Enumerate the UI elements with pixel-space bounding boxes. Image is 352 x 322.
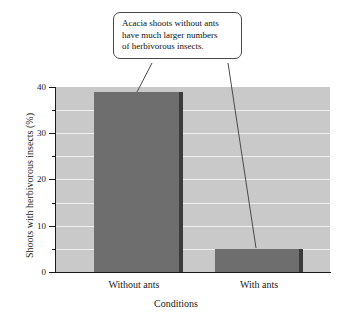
y-tick-25 bbox=[52, 156, 56, 157]
y-tick-label-0: 0 bbox=[42, 268, 47, 277]
annotation-callout: Acacia shoots without ants have much lar… bbox=[113, 12, 242, 59]
bar-with-ants bbox=[215, 249, 303, 272]
y-tick-label-10: 10 bbox=[37, 222, 46, 231]
y-tick-20 bbox=[49, 179, 56, 180]
x-axis-line bbox=[55, 272, 331, 273]
x-tick-label-without-ants: Without ants bbox=[84, 279, 184, 290]
y-tick-label-30: 30 bbox=[37, 129, 46, 138]
y-tick-label-20: 20 bbox=[37, 175, 46, 184]
y-tick-35 bbox=[52, 110, 56, 111]
y-tick-5 bbox=[52, 249, 56, 250]
y-axis-title: Shoots with herbivorous insects (%) bbox=[24, 86, 35, 286]
bar-with-ants-edge bbox=[299, 249, 303, 272]
bar-without-ants-edge bbox=[179, 92, 183, 272]
plot-area bbox=[56, 87, 330, 272]
y-tick-30 bbox=[49, 133, 56, 134]
y-tick-label-40: 40 bbox=[37, 83, 46, 92]
y-tick-40 bbox=[49, 87, 56, 88]
bar-without-ants bbox=[94, 92, 183, 272]
annotation-line-3: of herbivorous insects. bbox=[122, 41, 234, 53]
x-tick-label-with-ants: With ants bbox=[209, 279, 309, 290]
bar-chart-figure: 40 30 20 10 0 Shoots with herbivorous in… bbox=[0, 0, 352, 322]
y-tick-15 bbox=[52, 203, 56, 204]
y-tick-0 bbox=[49, 272, 56, 273]
y-tick-10 bbox=[49, 226, 56, 227]
y-axis-line bbox=[55, 87, 56, 273]
annotation-line-1: Acacia shoots without ants bbox=[122, 18, 234, 30]
annotation-line-2: have much larger numbers bbox=[122, 30, 234, 42]
x-axis-title: Conditions bbox=[0, 298, 352, 309]
